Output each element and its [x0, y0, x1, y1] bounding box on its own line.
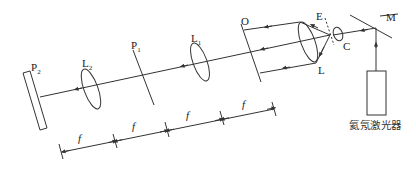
label-o: O [241, 16, 249, 27]
label-l1: L1 [191, 33, 201, 47]
label-c: C [343, 41, 350, 52]
lens-l2 [77, 67, 105, 111]
dimension-f-1: f [78, 133, 81, 144]
label-l2: L2 [82, 58, 92, 72]
screen-p2 [23, 71, 47, 130]
dimension-f-4: f [242, 99, 245, 110]
optical-setup-diagram: P2 L2 P1 L1 O E C L M 氦氖激光器 f f f f [0, 0, 416, 173]
label-p1: P1 [131, 40, 141, 54]
label-laser: 氦氖激光器 [349, 120, 402, 131]
label-l: L [318, 65, 325, 76]
focal-plane-p1 [133, 50, 154, 105]
laser-body [367, 71, 386, 115]
label-p2: P2 [31, 62, 41, 76]
dimension-f-2: f [132, 121, 135, 132]
label-m: M [386, 12, 396, 23]
pinhole-e [325, 18, 334, 45]
label-e: E [316, 11, 323, 22]
dimension-f-3: f [186, 110, 189, 121]
diagram-lines [0, 0, 416, 173]
